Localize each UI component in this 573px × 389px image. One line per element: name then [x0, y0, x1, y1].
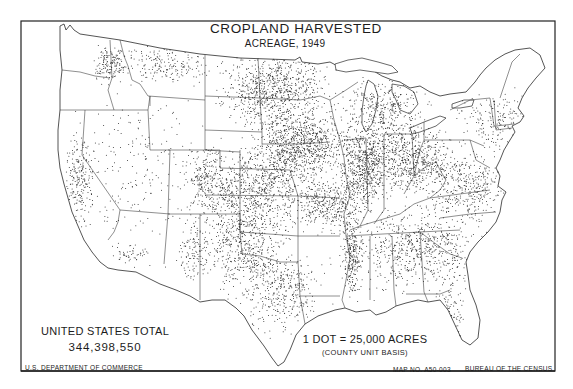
us-total-value: 344,398,550	[40, 341, 170, 353]
state-boundaries	[60, 40, 520, 324]
cropland-dots	[66, 45, 524, 339]
dot-scale-legend: 1 DOT = 25,000 ACRES	[290, 333, 440, 345]
bureau-credit: BUREAU OF THE CENSUS	[465, 365, 553, 372]
map-number: MAP NO. A50-003	[393, 366, 451, 373]
lake-ontario	[452, 100, 474, 108]
map-title: CROPLAND HARVESTED	[210, 21, 360, 36]
lake-huron	[392, 84, 418, 114]
lake-superior	[335, 58, 398, 74]
us-total-label: UNITED STATES TOTAL	[40, 325, 170, 337]
map-subtitle: ACREAGE, 1949	[210, 38, 360, 49]
dot-scale-basis: (COUNTY UNIT BASIS)	[290, 348, 440, 357]
department-credit: U.S. DEPARTMENT OF COMMERCE	[25, 364, 143, 371]
